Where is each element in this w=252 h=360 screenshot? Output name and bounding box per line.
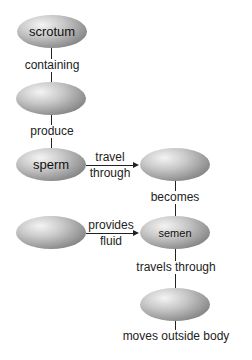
edge-label-through: through — [86, 167, 134, 180]
edge-label-containing: containing — [21, 59, 83, 72]
edge-label-travel: travel — [88, 151, 132, 164]
node-semen: semen — [140, 216, 210, 249]
node-scrotum: scrotum — [17, 15, 87, 48]
node-scrotum-label: scrotum — [29, 24, 75, 39]
node-unlabeled-2 — [16, 82, 86, 115]
node-sperm: sperm — [16, 148, 86, 181]
edge-label-moves-outside-body: moves outside body — [118, 330, 234, 343]
node-unlabeled-4 — [140, 148, 210, 181]
node-unlabeled-5 — [16, 216, 86, 249]
node-unlabeled-7 — [140, 288, 210, 321]
node-semen-label: semen — [158, 227, 191, 239]
edge-label-becomes: becomes — [145, 191, 205, 204]
edge-label-provides: provides — [86, 219, 136, 232]
edge-label-fluid: fluid — [88, 235, 134, 248]
edge-label-travels-through: travels through — [131, 261, 221, 274]
edge-label-produce: produce — [24, 125, 80, 138]
node-sperm-label: sperm — [33, 157, 69, 172]
